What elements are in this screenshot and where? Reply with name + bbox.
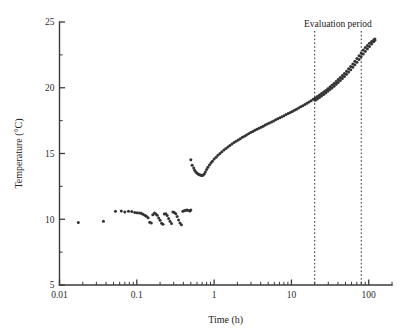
- data-point: [373, 39, 376, 42]
- data-point: [364, 50, 367, 53]
- x-tick-label: 0.01: [51, 290, 68, 300]
- data-point: [123, 211, 126, 214]
- data-point: [177, 218, 180, 221]
- data-point: [360, 55, 363, 58]
- y-axis-title: Temperature (°C): [13, 118, 25, 188]
- data-point: [353, 63, 356, 66]
- data-point: [189, 209, 192, 212]
- series-0: [77, 209, 193, 227]
- data-point: [170, 222, 173, 225]
- x-tick-label: 1: [212, 290, 217, 300]
- data-point: [130, 210, 133, 213]
- data-point: [161, 223, 164, 226]
- x-tick-label: 100: [362, 290, 377, 300]
- series-1: [189, 38, 376, 177]
- x-tick-label: 10: [287, 290, 297, 300]
- data-point: [351, 66, 354, 69]
- x-axis-title: Time (h): [208, 314, 243, 326]
- y-tick-label: 5: [50, 280, 55, 290]
- data-point: [147, 216, 150, 219]
- y-tick-label: 15: [45, 149, 55, 159]
- x-tick-label: 0.1: [131, 290, 143, 300]
- data-point: [167, 217, 170, 220]
- data-point: [349, 68, 352, 71]
- data-point: [159, 219, 162, 222]
- data-point: [355, 61, 358, 64]
- y-tick-label: 10: [45, 215, 55, 225]
- data-point: [114, 210, 117, 213]
- data-point: [191, 164, 194, 167]
- data-point: [77, 221, 80, 224]
- chart-canvas: 5101520250.010.1110100Evaluation periodT…: [0, 0, 413, 336]
- axis-group: [60, 22, 393, 285]
- data-point: [176, 215, 179, 218]
- y-tick-label: 20: [45, 83, 55, 93]
- data-point: [174, 212, 177, 215]
- data-point-group: [77, 38, 377, 227]
- data-point: [127, 210, 130, 213]
- evaluation-marker-group: [315, 31, 362, 285]
- data-point: [166, 214, 169, 217]
- tick-group: [60, 22, 393, 285]
- data-point: [180, 223, 183, 226]
- data-point: [362, 52, 365, 55]
- figure-container: 5101520250.010.1110100Evaluation periodT…: [0, 0, 413, 336]
- data-point: [366, 47, 369, 50]
- y-tick-label: 25: [45, 17, 55, 27]
- data-point: [347, 71, 350, 74]
- data-point: [370, 43, 373, 46]
- data-point: [120, 210, 123, 213]
- data-point: [156, 214, 159, 217]
- data-point: [368, 45, 371, 48]
- data-point: [102, 220, 105, 223]
- data-point: [150, 221, 153, 224]
- data-point: [358, 58, 361, 61]
- data-point: [345, 73, 348, 76]
- evaluation-period-label: Evaluation period: [304, 19, 372, 29]
- data-point: [189, 158, 192, 161]
